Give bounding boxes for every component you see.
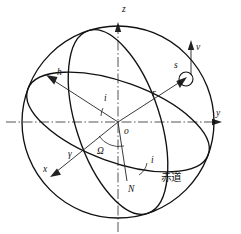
y-axis-label: y (215, 108, 221, 118)
satellite-label: s (174, 60, 178, 70)
inclination-node-label: i (151, 155, 154, 165)
z-axis-arrowhead (115, 22, 121, 32)
satellite-marker (179, 72, 193, 86)
x-axis-label: x (42, 164, 48, 174)
equator-label: 赤道 (161, 171, 182, 183)
x-axis-vector (50, 122, 118, 177)
v-vector-label: v (196, 42, 201, 52)
axis-group (6, 32, 212, 232)
h-vector-label: h (57, 67, 62, 77)
v-vector-arrowhead (188, 40, 194, 50)
h-vector (46, 75, 118, 122)
orbital-sphere-diagram: z y x o h r v s N γ i i Ω 赤道 (0, 0, 241, 234)
z-axis-label: z (121, 4, 126, 14)
r-vector-label: r (152, 88, 156, 98)
vernal-equinox-label: γ (68, 149, 72, 159)
inclination-center-label: i (104, 93, 107, 103)
raan-label: Ω (97, 146, 104, 156)
origin-label: o (124, 126, 129, 136)
h-vector-arrowhead (46, 75, 58, 84)
node-label: N (127, 184, 135, 194)
